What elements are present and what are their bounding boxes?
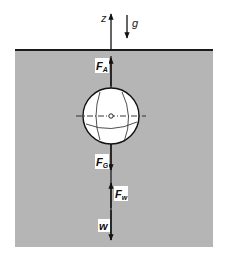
- buoyancy-force-label: FA: [95, 58, 109, 73]
- svg-text:w: w: [99, 220, 109, 232]
- weight-force-label: FG: [95, 154, 109, 169]
- fluid-region: [15, 50, 213, 247]
- drag-force-label: Fw: [114, 186, 128, 201]
- velocity-label: w: [98, 219, 110, 232]
- fluid-force-diagram: z g FA FG Fw w: [0, 0, 225, 259]
- gravity-label: g: [132, 17, 139, 29]
- z-axis-label: z: [100, 12, 107, 24]
- sphere-center-point: [109, 114, 113, 118]
